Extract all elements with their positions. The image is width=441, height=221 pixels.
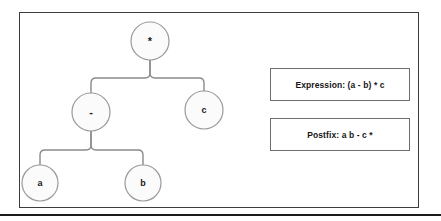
expression-tree-figure-panel: [19, 12, 419, 208]
expression-text: Expression: (a - b) * c: [295, 80, 384, 90]
tree-node-minus-label: -: [89, 107, 93, 118]
tree-node-root-label: *: [148, 36, 152, 47]
tree-node-c-label: c: [201, 106, 206, 115]
postfix-text: Postfix: a b - c *: [307, 130, 373, 140]
expression-info-box: Expression: (a - b) * c: [270, 68, 410, 101]
bottom-divider-rule: [0, 214, 441, 216]
tree-node-a-label: a: [37, 179, 42, 188]
tree-node-b-label: b: [140, 179, 146, 188]
postfix-info-box: Postfix: a b - c *: [270, 118, 410, 151]
